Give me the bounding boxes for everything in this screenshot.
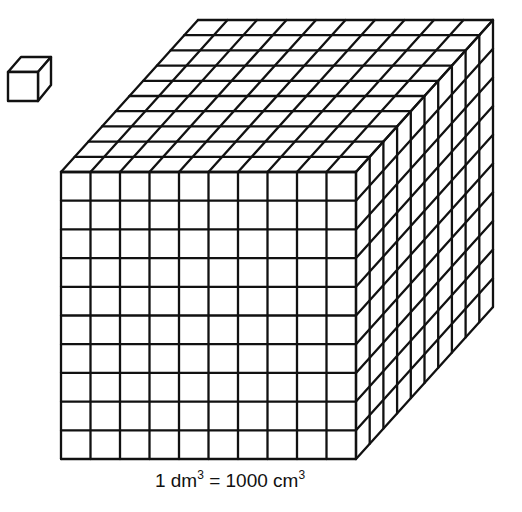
small-unit-cube-icon bbox=[8, 57, 51, 101]
rhs-number: 1000 bbox=[226, 470, 268, 491]
volume-equation-caption: 1 dm3 = 1000 cm3 bbox=[0, 470, 460, 492]
rhs-exponent: 3 bbox=[298, 468, 305, 482]
lhs-unit: dm bbox=[171, 470, 197, 491]
lhs-number: 1 bbox=[155, 470, 166, 491]
rhs-unit: cm bbox=[273, 470, 298, 491]
lhs-exponent: 3 bbox=[197, 468, 204, 482]
large-cube-grid bbox=[61, 20, 493, 459]
equals-sign: = bbox=[209, 470, 220, 491]
cube-diagram bbox=[0, 0, 522, 512]
